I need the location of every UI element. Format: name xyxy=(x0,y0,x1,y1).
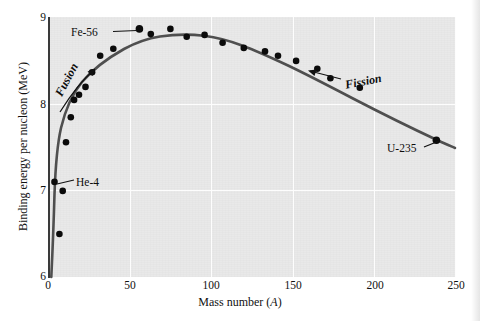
annotation-u-235: U-235 xyxy=(387,142,416,154)
data-point xyxy=(201,32,208,39)
data-point xyxy=(219,39,226,46)
data-point xyxy=(63,139,70,146)
binding-energy-chart: 9 8 7 6 0 50 100 150 200 250 Fe-56 He-4 … xyxy=(0,0,480,321)
data-point xyxy=(97,52,104,59)
x-axis-title-symbol: A xyxy=(270,295,277,309)
x-tick-label-200: 200 xyxy=(355,279,395,291)
data-point xyxy=(262,48,269,55)
x-tick-label-50: 50 xyxy=(110,279,150,291)
data-point xyxy=(71,97,78,104)
x-axis-title-close: ) xyxy=(278,295,282,309)
annotation-he-4: He-4 xyxy=(76,176,99,188)
data-point xyxy=(241,45,248,52)
data-point xyxy=(82,84,89,91)
x-axis-title: Mass number (A) xyxy=(0,295,480,310)
binding-energy-curve xyxy=(51,35,455,277)
data-point xyxy=(148,31,155,38)
x-tick-label-100: 100 xyxy=(191,279,231,291)
x-axis-title-text: Mass number ( xyxy=(198,295,270,309)
y-axis-title: Binding energy per nucleon (MeV) xyxy=(16,17,31,277)
data-point xyxy=(76,91,83,98)
data-point xyxy=(183,33,190,40)
he4-leader-line xyxy=(57,180,74,184)
data-point xyxy=(293,58,300,65)
data-point xyxy=(51,179,58,186)
annotation-fe-56: Fe-56 xyxy=(71,26,98,38)
data-point xyxy=(275,52,282,59)
data-point xyxy=(136,25,144,33)
x-tick-label-250: 250 xyxy=(436,279,476,291)
data-point xyxy=(56,231,63,238)
x-tick-label-0: 0 xyxy=(28,279,68,291)
data-point xyxy=(59,188,66,195)
data-point xyxy=(68,114,75,121)
data-point xyxy=(110,46,117,53)
fe56-leader-line xyxy=(113,31,137,32)
x-tick-label-150: 150 xyxy=(273,279,313,291)
data-point xyxy=(167,26,174,33)
chart-overlay xyxy=(0,0,480,321)
